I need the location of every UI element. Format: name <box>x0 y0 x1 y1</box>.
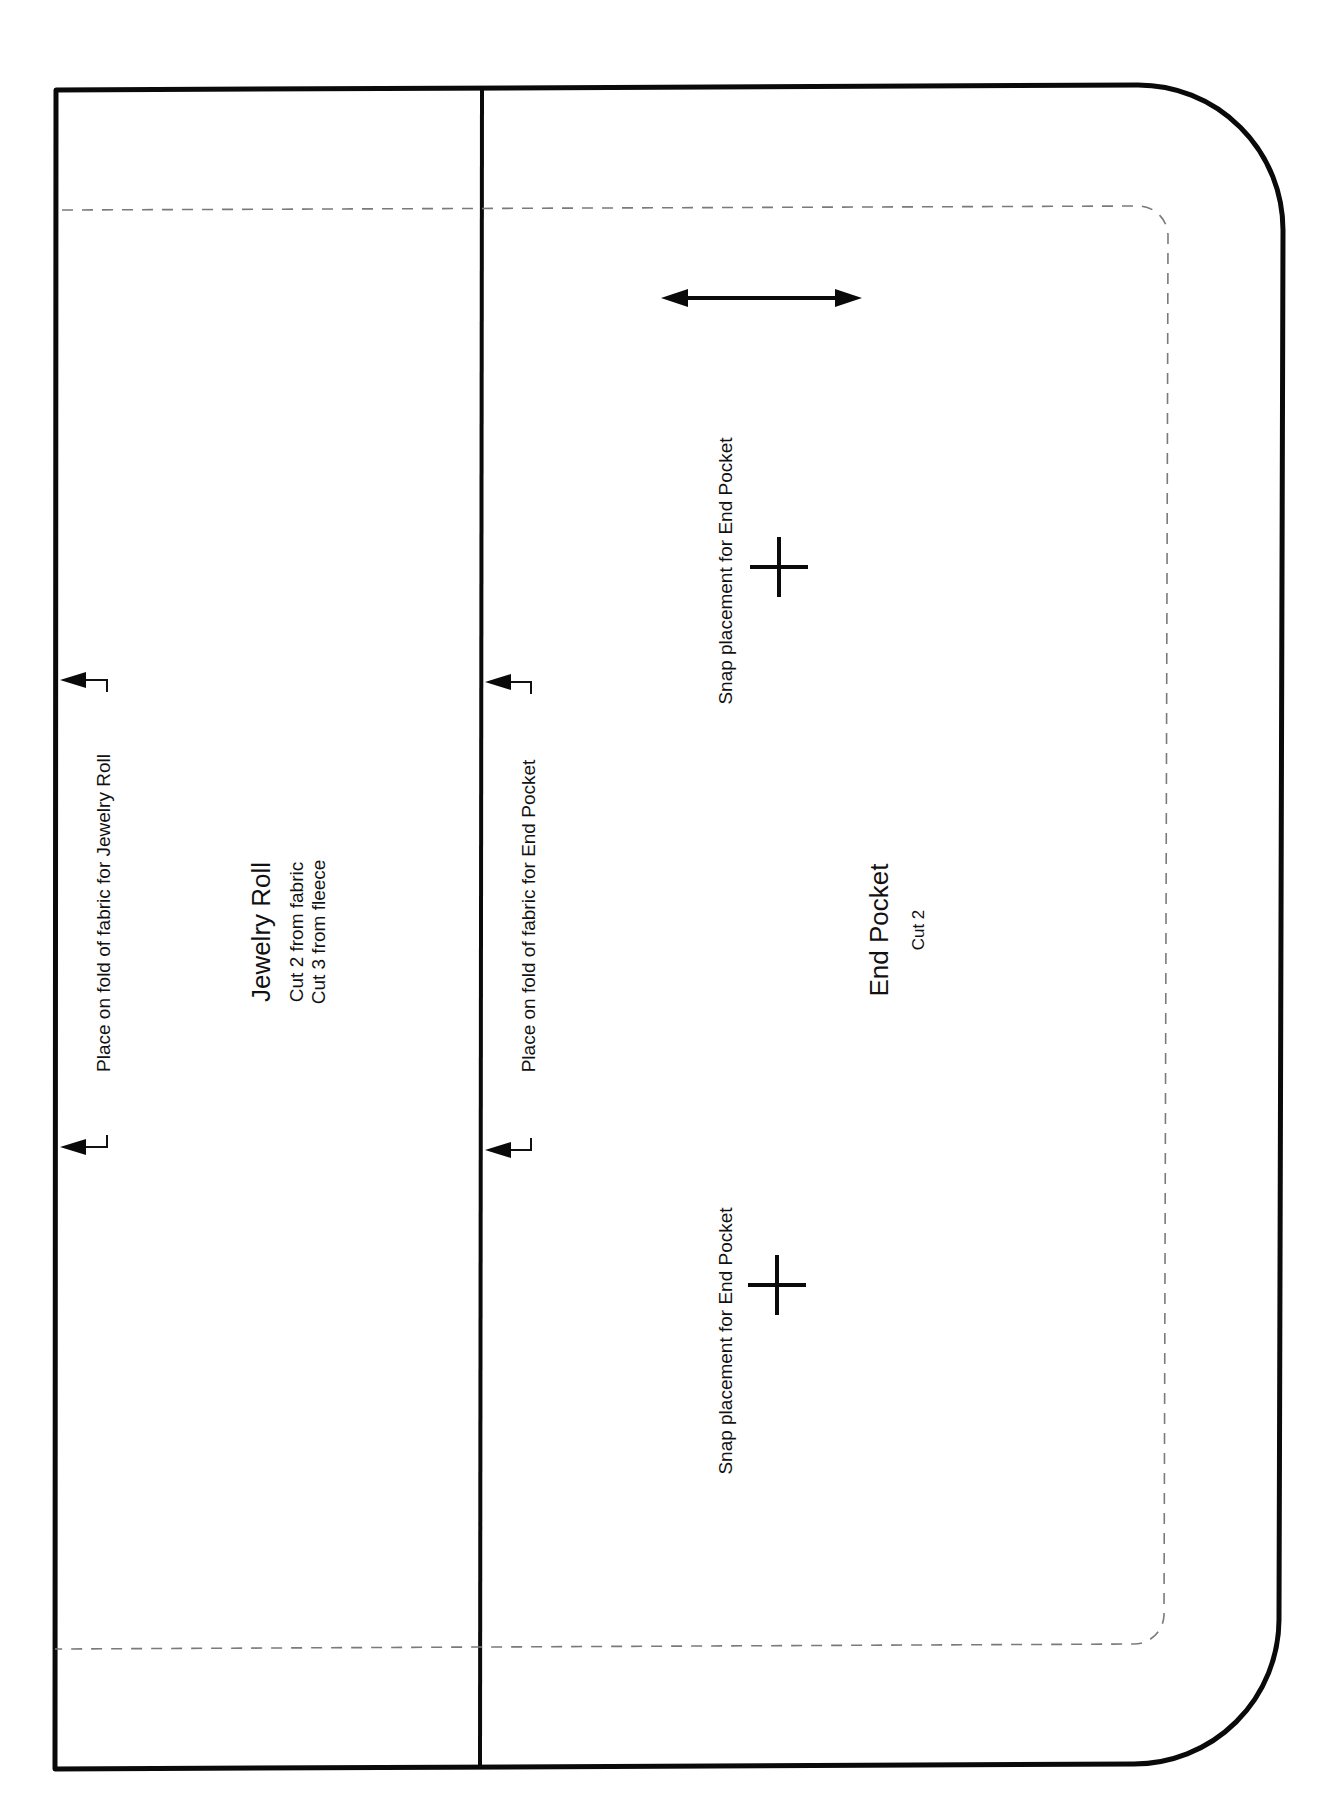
piece-cut-line-1: Cut 2 <box>909 910 928 951</box>
snap-placement-top: Snap placement for End Pocket <box>715 437 808 705</box>
piece-divider-line <box>480 89 482 1767</box>
plus-icon <box>748 1255 806 1315</box>
piece-cut-line-1: Cut 2 from fabric <box>286 862 307 1002</box>
piece-cut-line-2: Cut 3 from fleece <box>308 860 329 1005</box>
piece-label-jewelry-roll: Jewelry Roll Cut 2 from fabric Cut 3 fro… <box>246 860 329 1005</box>
seam-allowance-line <box>55 206 1168 1649</box>
piece-label-end-pocket: End Pocket Cut 2 <box>864 863 928 997</box>
snap-label: Snap placement for End Pocket <box>715 1207 736 1475</box>
sewing-pattern-sheet: Place on fold of fabric for Jewelry Roll… <box>0 0 1344 1809</box>
fold-label-end-pocket: Place on fold of fabric for End Pocket <box>518 759 539 1072</box>
fold-marker-end-pocket: Place on fold of fabric for End Pocket <box>485 674 539 1158</box>
fold-label-jewelry-roll: Place on fold of fabric for Jewelry Roll <box>93 754 114 1072</box>
piece-title-end-pocket: End Pocket <box>864 863 894 997</box>
piece-title-jewelry-roll: Jewelry Roll <box>246 862 276 1002</box>
plus-icon <box>750 537 808 597</box>
snap-placement-bottom: Snap placement for End Pocket <box>715 1207 806 1475</box>
snap-label: Snap placement for End Pocket <box>715 437 736 705</box>
fold-marker-jewelry-roll: Place on fold of fabric for Jewelry Roll <box>60 672 114 1155</box>
pattern-cut-outline <box>55 85 1283 1769</box>
double-arrow-icon <box>661 289 862 307</box>
